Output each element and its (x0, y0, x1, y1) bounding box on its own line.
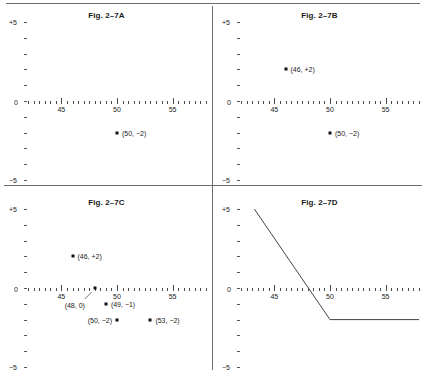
data-point-label-c: (48, 0) (65, 302, 85, 309)
data-point-c (71, 255, 74, 258)
data-point-label-c: (49, −1) (111, 300, 135, 307)
data-point-c (104, 302, 107, 305)
data-point-b (329, 131, 332, 134)
panel-fig-2-7a: Fig. 2–7A +50−5455055(50, −2) (0, 0, 213, 186)
plot-area-c: +50−5455055(46, +2)(48, 0)(49, −1)(50, −… (0, 187, 213, 373)
line-series-d (213, 187, 426, 373)
line-path-d (254, 209, 419, 320)
leader-lines-c (0, 187, 213, 373)
data-point-a (116, 131, 119, 134)
data-point-label-a: (50, −2) (122, 129, 146, 136)
panel-fig-2-7c: Fig. 2–7C +50−5455055(46, +2)(48, 0)(49,… (0, 187, 213, 373)
data-point-b (284, 68, 287, 71)
data-point-label-c: (53, −2) (155, 316, 179, 323)
figure-page: Fig. 2–7A +50−5455055(50, −2) Fig. 2–7B … (0, 0, 426, 373)
data-point-c (116, 318, 119, 321)
data-point-label-c: (50, −2) (88, 316, 112, 323)
plot-area-b: +50−5455055(46, +2)(50, −2) (213, 0, 426, 186)
leader-lines-b (213, 0, 426, 186)
panel-fig-2-7d: Fig. 2–7D +50−5455055 (213, 187, 426, 373)
data-point-c (149, 318, 152, 321)
data-point-c (93, 287, 96, 290)
leader-lines-a (0, 0, 213, 186)
data-point-label-b: (50, −2) (335, 129, 359, 136)
plot-area-a: +50−5455055(50, −2) (0, 0, 213, 186)
panel-fig-2-7b: Fig. 2–7B +50−5455055(46, +2)(50, −2) (213, 0, 426, 186)
data-point-label-b: (46, +2) (291, 66, 315, 73)
data-point-label-c: (46, +2) (78, 253, 102, 260)
plot-area-d: +50−5455055 (213, 187, 426, 373)
